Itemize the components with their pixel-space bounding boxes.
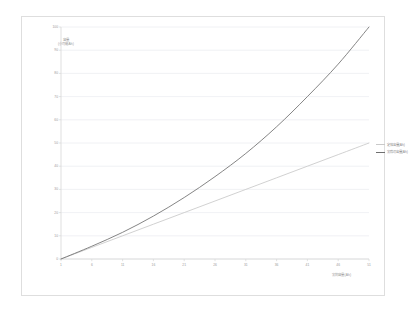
y-tick-label: 0 <box>42 257 58 261</box>
y-tick-label: 70 <box>42 95 58 99</box>
y-tick-label: 50 <box>42 141 58 145</box>
x-tick-label: 46 <box>331 263 345 267</box>
y-tick-label: 100 <box>42 25 58 29</box>
y-tick-label: 90 <box>42 48 58 52</box>
series-line-1 <box>61 143 369 259</box>
x-tick-label: 26 <box>208 263 222 267</box>
x-tick-label: 11 <box>116 263 130 267</box>
x-tick-label: 36 <box>270 263 284 267</box>
y-tick-label: 30 <box>42 187 58 191</box>
gridlines <box>61 27 369 259</box>
legend-item-2[interactable]: 実際の容量(Ah) <box>376 150 413 155</box>
line-chart-svg <box>22 17 386 297</box>
x-tick-label: 16 <box>146 263 160 267</box>
legend-item-1[interactable]: 定格容量(Ah) <box>376 142 413 147</box>
legend-line-swatch <box>376 144 385 145</box>
y-tick-label: 60 <box>42 118 58 122</box>
x-tick-label: 51 <box>362 263 376 267</box>
x-tick-label: 1 <box>54 263 68 267</box>
y-tick-label: 80 <box>42 71 58 75</box>
y-tick-label: 40 <box>42 164 58 168</box>
y-tick-label: 10 <box>42 234 58 238</box>
y-tick-label: 20 <box>42 211 58 215</box>
chart-frame: 容量 (小可能Ah) 実効容量(Ah) 01020304050607080901… <box>21 16 385 296</box>
x-tick-label: 6 <box>85 263 99 267</box>
x-axis-title: 実効容量(Ah) <box>332 273 378 277</box>
y-axis-title: 容量 (小可能Ah) <box>51 38 81 47</box>
legend-line-swatch <box>376 152 385 153</box>
chart-legend: 定格容量(Ah)実際の容量(Ah) <box>376 142 413 157</box>
x-tick-label: 21 <box>177 263 191 267</box>
plot-area <box>22 17 384 295</box>
legend-label: 定格容量(Ah) <box>387 143 405 147</box>
axis-lines <box>59 27 369 261</box>
x-tick-label: 31 <box>239 263 253 267</box>
legend-label: 実際の容量(Ah) <box>387 150 408 154</box>
x-tick-label: 41 <box>300 263 314 267</box>
